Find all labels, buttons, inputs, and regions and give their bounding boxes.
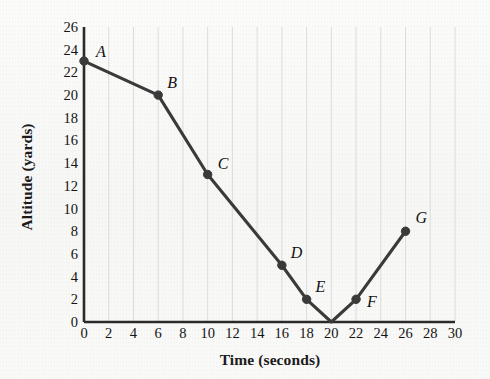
point-label-d: D [291,245,303,261]
point-label-a: A [96,44,106,60]
point-label-c: C [218,156,229,172]
altitude-vs-time-chart: Altitude (yards) Time (seconds) 02468101… [0,0,490,379]
point-label-layer: ABCDEFG [0,0,490,379]
point-label-b: B [167,75,177,91]
point-label-e: E [316,279,326,295]
point-label-f: F [367,294,377,310]
point-label-g: G [416,210,428,226]
